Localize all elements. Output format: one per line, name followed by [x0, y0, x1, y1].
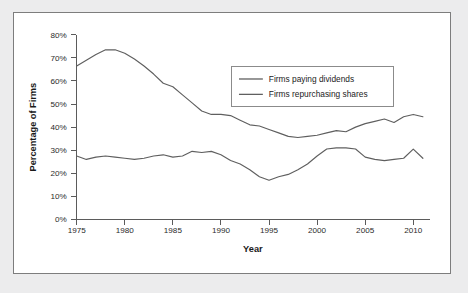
x-axis: 1975 1980 1985 1990 1995 2000 2005 2010 … — [68, 220, 430, 254]
y-tick-label-20: 20% — [50, 169, 66, 178]
x-tick-label-2000: 2000 — [308, 226, 327, 235]
x-tick-label-1990: 1990 — [212, 226, 231, 235]
line-chart: 80% 70% 60% 50% 40% 30% 20% 10% 0% Perce… — [14, 13, 450, 273]
y-axis: 80% 70% 60% 50% 40% 30% 20% 10% 0% Perce… — [28, 31, 76, 225]
y-tick-label-50: 50% — [50, 100, 66, 109]
y-tick-group — [71, 35, 76, 220]
y-tick-label-10: 10% — [50, 192, 66, 201]
x-axis-title: Year — [243, 244, 263, 254]
series-line-firms-repurchasing-shares — [77, 148, 423, 180]
y-tick-label-0: 0% — [55, 215, 67, 224]
x-tick-label-1985: 1985 — [164, 226, 183, 235]
y-tick-label-30: 30% — [50, 146, 66, 155]
y-axis-title: Percentage of Firms — [28, 83, 38, 172]
legend: Firms paying dividends Firms repurchasin… — [231, 67, 393, 107]
x-tick-label-1975: 1975 — [68, 226, 87, 235]
x-tick-group — [77, 220, 414, 225]
figure-panel: 80% 70% 60% 50% 40% 30% 20% 10% 0% Perce… — [13, 12, 451, 274]
x-tick-label-1995: 1995 — [260, 226, 279, 235]
y-tick-label-60: 60% — [50, 77, 66, 86]
x-tick-label-1980: 1980 — [116, 226, 135, 235]
legend-label-1: Firms repurchasing shares — [269, 89, 368, 99]
y-tick-label-80: 80% — [50, 31, 66, 40]
x-tick-label-2005: 2005 — [356, 226, 375, 235]
legend-box — [231, 67, 393, 107]
y-tick-label-40: 40% — [50, 123, 66, 132]
x-tick-label-2010: 2010 — [404, 226, 423, 235]
legend-label-0: Firms paying dividends — [269, 74, 354, 84]
y-tick-label-70: 70% — [50, 54, 66, 63]
